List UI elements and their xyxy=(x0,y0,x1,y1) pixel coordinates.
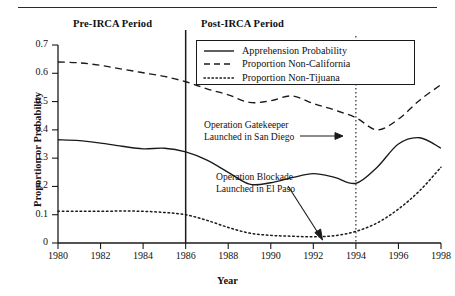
legend-label-non-tijuana: Proportion Non-Tijuana xyxy=(242,73,340,83)
data-series-group xyxy=(58,62,441,237)
x-tick-label-1988: 1988 xyxy=(208,250,248,261)
figure-container: Pre-IRCA Period Post-IRCA Period Proport… xyxy=(0,0,455,296)
annotation-gatekeeper: Operation Gatekeeper Launched in San Die… xyxy=(204,119,294,142)
annotation-gatekeeper-line1: Operation Gatekeeper xyxy=(204,119,294,131)
x-axis-title: Year xyxy=(0,275,455,286)
x-tick-label-1980: 1980 xyxy=(38,250,78,261)
y-tick-label-0.5: 0.5 xyxy=(22,95,48,106)
blockade-arrow-head xyxy=(315,229,323,240)
x-tick-label-1996: 1996 xyxy=(378,250,418,261)
legend-item-apprehension: Apprehension Probability xyxy=(197,44,414,58)
x-tick-label-1986: 1986 xyxy=(166,250,206,261)
gatekeeper-arrow-head xyxy=(335,133,343,140)
annotation-gatekeeper-line2: Launched in San Diego xyxy=(204,131,294,143)
y-tick-label-0.7: 0.7 xyxy=(22,38,48,49)
annotation-arrows xyxy=(288,133,343,240)
annotation-blockade-line2: Launched in El Paso xyxy=(216,183,295,195)
y-axis-ticks xyxy=(52,45,58,243)
x-tick-label-1984: 1984 xyxy=(123,250,163,261)
x-tick-label-1992: 1992 xyxy=(293,250,333,261)
x-tick-label-1998: 1998 xyxy=(421,250,455,261)
chart-legend: Apprehension Probability Proportion Non-… xyxy=(196,40,415,85)
x-tick-label-1982: 1982 xyxy=(81,250,121,261)
x-tick-label-1990: 1990 xyxy=(251,250,291,261)
legend-swatch-dotted xyxy=(203,73,235,83)
y-tick-label-0.2: 0.2 xyxy=(22,179,48,190)
y-tick-label-0.4: 0.4 xyxy=(22,123,48,134)
y-tick-label-0: 0 xyxy=(22,236,48,247)
y-tick-label-0.3: 0.3 xyxy=(22,151,48,162)
legend-label-apprehension: Apprehension Probability xyxy=(242,46,347,56)
legend-item-non-tijuana: Proportion Non-Tijuana xyxy=(197,71,414,85)
legend-label-non-california: Proportion Non-California xyxy=(242,59,350,69)
legend-item-non-california: Proportion Non-California xyxy=(197,58,414,72)
legend-swatch-dashed xyxy=(203,59,235,69)
annotation-blockade-line1: Operation Blockade xyxy=(216,171,295,183)
x-tick-label-1994: 1994 xyxy=(336,250,376,261)
legend-swatch-solid xyxy=(203,46,235,56)
y-tick-label-0.6: 0.6 xyxy=(22,66,48,77)
y-tick-label-0.1: 0.1 xyxy=(22,208,48,219)
annotation-blockade: Operation Blockade Launched in El Paso xyxy=(216,171,295,194)
x-axis-ticks xyxy=(58,243,441,249)
